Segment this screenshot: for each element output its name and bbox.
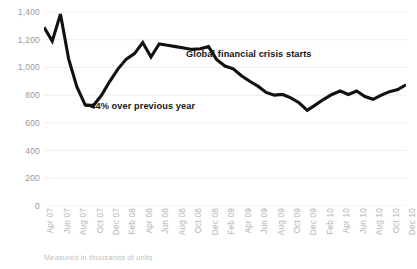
x-axis-tick-label: Jun 10 [360,208,368,234]
x-axis-tick-label: Apr 07 [47,208,55,233]
x-axis-tick-label: Feb 09 [228,208,236,235]
x-axis-tick-label: Dec 08 [212,208,220,235]
x-axis-tick-label: Dec 10 [409,208,417,235]
x-axis-tick-label: Aug 09 [278,208,286,235]
data-series-line [44,14,406,110]
x-axis-tick-label: Aug 08 [179,208,187,235]
y-axis-tick-label: 1,200 [0,35,40,44]
x-axis-tick-label: Feb 08 [129,208,137,235]
annotation-decline-callout: –44% over previous year [85,102,195,111]
y-axis-tick-label: 400 [0,146,40,155]
x-axis: Apr 07Jun 07Aug 07Oct 07Dec 07Feb 08Apr … [44,208,406,252]
chart-footnote: Measured in thousands of units [44,254,153,261]
x-axis-tick-label: Oct 09 [294,208,302,233]
x-axis-tick-label: Feb 10 [327,208,335,235]
x-axis-tick-label: Jun 07 [64,208,72,234]
x-axis-tick-label: Apr 10 [343,208,351,233]
x-axis-tick-label: Dec 07 [113,208,121,235]
y-axis-tick-label: 0 [0,202,40,211]
y-axis-tick-label: 800 [0,91,40,100]
y-axis-tick-label: 600 [0,119,40,128]
chart-container: 02004006008001,0001,2001,400 Apr 07Jun 0… [0,0,417,269]
x-axis-tick-label: Aug 07 [80,208,88,235]
y-axis-tick-label: 1,000 [0,63,40,72]
y-axis-tick-label: 200 [0,174,40,183]
y-axis-tick-label: 1,400 [0,8,40,17]
x-axis-tick-label: Apr 08 [146,208,154,233]
annotation-crisis-start: Global financial crisis starts [186,50,312,59]
y-axis: 02004006008001,0001,2001,400 [0,12,40,206]
x-axis-tick-label: Jun 09 [261,208,269,234]
x-axis-tick-label: Oct 10 [393,208,401,233]
x-axis-tick-label: Oct 08 [195,208,203,233]
x-axis-tick-label: Aug 10 [376,208,384,235]
x-axis-tick-label: Apr 09 [245,208,253,233]
x-axis-tick-label: Oct 07 [97,208,105,233]
x-axis-tick-label: Dec 09 [310,208,318,235]
x-axis-tick-label: Jun 08 [162,208,170,234]
